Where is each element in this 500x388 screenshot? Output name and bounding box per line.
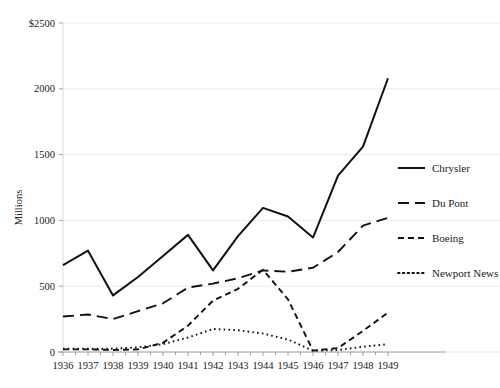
x-tick-label: 1944 [253,360,275,371]
x-tick-label: 1942 [203,360,224,371]
series-line-chrysler [63,78,388,295]
y-tick-label: 500 [39,281,55,292]
y-tick-label: 0 [50,347,55,358]
x-tick-label: 1943 [228,360,249,371]
x-tick-label: 1946 [303,360,324,371]
x-axis-group [58,23,446,356]
legend-label-newport-news: Newport News [432,267,498,279]
y-axis-title-group: Millions [13,190,24,226]
series-group [63,78,388,350]
y-tick-label: 1500 [34,149,55,160]
y-tick-label: 1000 [34,215,55,226]
x-tick-labels: 1936193719381939194019411942194319441945… [53,360,399,371]
x-tick-label: 1941 [178,360,199,371]
y-tick-group [59,23,63,352]
x-tick-label: 1936 [53,360,74,371]
chart-canvas: 0500100015002000$2500 193619371938193919… [0,0,500,388]
y-tick-label: $2500 [29,18,55,29]
series-line-du-pont [63,218,388,319]
legend-label-chrysler: Chrysler [432,162,470,174]
y-axis-title: Millions [13,190,24,226]
legend-label-du-pont: Du Pont [432,197,468,209]
y-tick-labels: 0500100015002000$2500 [29,18,55,358]
x-tick-label: 1948 [353,360,374,371]
legend-label-boeing: Boeing [432,232,464,244]
x-tick-label: 1938 [103,360,124,371]
line-chart: 0500100015002000$2500 193619371938193919… [0,0,500,388]
x-tick-label: 1945 [278,360,299,371]
x-tick-label: 1939 [128,360,149,371]
series-line-newport-news [63,329,388,351]
x-tick-label: 1949 [378,360,399,371]
x-tick-label: 1947 [328,360,349,371]
x-tick-label: 1940 [153,360,174,371]
gridlines-group [63,23,500,352]
x-tick-label: 1937 [78,360,99,371]
y-tick-label: 2000 [34,83,55,94]
